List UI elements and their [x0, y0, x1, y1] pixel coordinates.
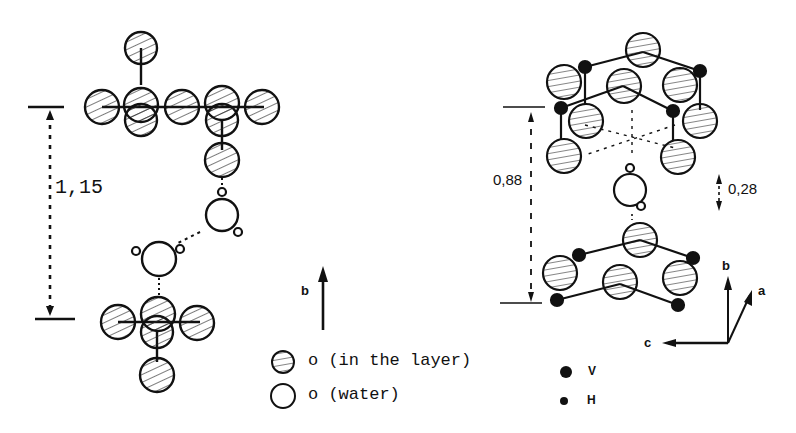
offset-label-right: 0,28 — [728, 180, 757, 197]
legend-label-hydrogen: H — [587, 393, 596, 407]
legend-label-water-oxygen: o (water) — [308, 385, 400, 404]
legend-label-layer-oxygen: o (in the layer) — [308, 351, 471, 370]
spacing-label-left: 1,15 — [55, 176, 103, 199]
right-structure — [500, 33, 752, 347]
hatched-circle-icon — [272, 351, 294, 373]
a-axis-label: a — [758, 283, 765, 298]
diagram-root: 1,15 b 0,88 0,28 b a c o (in the layer) … — [0, 0, 796, 433]
b-axis-label-left: b — [301, 283, 309, 298]
b-axis-label-right: b — [722, 258, 730, 273]
c-axis-label: c — [644, 335, 651, 350]
open-circle-icon — [271, 384, 295, 408]
v-atom-icon — [560, 366, 572, 378]
h-atom-icon — [560, 397, 568, 405]
spacing-label-right: 0,88 — [493, 171, 522, 188]
left-structure — [28, 32, 328, 392]
legend-label-vanadium: V — [588, 364, 596, 378]
